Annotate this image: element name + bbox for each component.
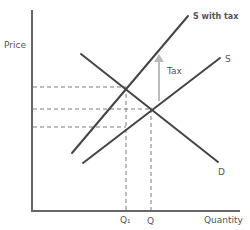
q-tick-label: Q: [147, 216, 154, 226]
supply-label: S: [225, 54, 231, 64]
supply-with-tax-curve: [72, 16, 188, 153]
demand-curve: [81, 54, 218, 162]
y-axis-label: Price: [4, 40, 26, 50]
tax-arrow: [154, 54, 164, 101]
x-axis-label: Quantity: [204, 215, 244, 225]
q1-tick-label: Q₁: [120, 215, 131, 225]
tax-label: Tax: [166, 66, 183, 76]
reference-lines: [33, 87, 151, 211]
curves: [72, 16, 220, 163]
supply-with-tax-label: S with tax: [193, 12, 239, 21]
demand-label: D: [218, 167, 225, 177]
axes: [31, 10, 240, 212]
tax-incidence-chart: Price Quantity S with tax S D Tax Q₁ Q: [0, 0, 250, 230]
